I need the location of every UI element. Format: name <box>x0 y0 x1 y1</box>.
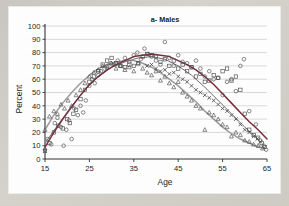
y-tick-label: 80 <box>32 48 40 57</box>
panel-background <box>9 7 280 193</box>
y-axis-label: Percent <box>14 84 24 114</box>
x-tick-label: 15 <box>41 164 49 173</box>
x-tick-label: 45 <box>174 164 182 173</box>
chart-panel: 0102030405060708090100152535455565 a- Ma… <box>9 7 280 193</box>
y-tick-label: 60 <box>32 75 40 84</box>
y-tick-label: 0 <box>36 155 40 164</box>
y-tick-label: 40 <box>32 102 40 111</box>
y-tick-label: 30 <box>32 115 40 124</box>
x-tick-label: 65 <box>263 164 271 173</box>
chart-svg: 0102030405060708090100152535455565 a- Ma… <box>9 7 280 193</box>
x-tick-label: 35 <box>130 164 138 173</box>
x-tick-label: 55 <box>218 164 226 173</box>
y-tick-label: 20 <box>32 128 40 137</box>
chart-title: a- Males <box>151 15 179 24</box>
x-axis-label: Age <box>158 177 173 187</box>
y-tick-label: 90 <box>32 35 40 44</box>
y-tick-label: 100 <box>28 22 41 31</box>
y-tick-label: 50 <box>32 88 40 97</box>
y-tick-label: 10 <box>32 141 40 150</box>
screenshot-root: 0102030405060708090100152535455565 a- Ma… <box>0 0 289 206</box>
y-tick-label: 70 <box>32 62 40 71</box>
x-tick-label: 25 <box>85 164 93 173</box>
